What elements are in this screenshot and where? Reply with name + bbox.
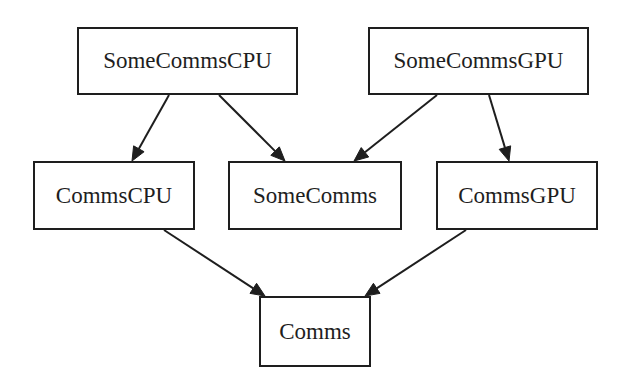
node-some-comms: SomeComms [228,161,402,230]
edge-line [377,230,466,288]
arrowhead-icon [354,148,369,161]
node-label: SomeCommsGPU [394,48,564,74]
arrowhead-icon [499,146,510,161]
edge-somecommsgpu-to-commsgpu [489,95,511,161]
node-comms-gpu: CommsGPU [436,161,598,230]
edge-line [164,230,253,288]
edge-somecommscpu-to-commscpu [132,95,169,161]
edge-line [489,95,505,148]
node-label: CommsGPU [458,183,576,209]
edge-commsgpu-to-comms [365,230,466,296]
dependency-graph: SomeCommsCPU SomeCommsGPU CommsCPU SomeC… [0,0,632,386]
node-comms: Comms [259,296,371,367]
edge-line [365,95,437,152]
node-label: Comms [279,319,351,345]
node-comms-cpu: CommsCPU [33,161,195,230]
node-label: SomeCommsCPU [103,48,272,74]
node-some-comms-cpu: SomeCommsCPU [77,27,298,95]
arrowhead-icon [365,283,380,296]
node-label: CommsCPU [56,183,172,209]
edge-line [219,95,275,151]
arrowhead-icon [132,146,144,161]
edge-line [139,95,169,149]
edge-somecommsgpu-to-somecomms [354,95,437,161]
node-some-comms-gpu: SomeCommsGPU [368,27,589,95]
arrowhead-icon [250,283,265,296]
node-label: SomeComms [253,183,377,209]
edge-commscpu-to-comms [164,230,265,296]
edge-somecommscpu-to-somecomms [219,95,285,161]
